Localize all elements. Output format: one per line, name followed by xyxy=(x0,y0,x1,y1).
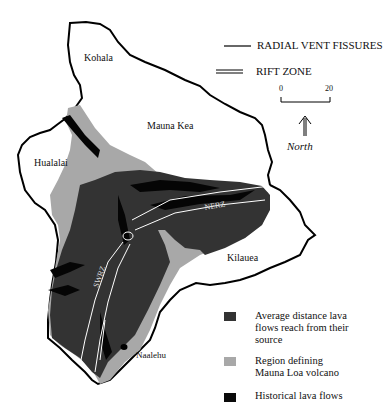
swatch-average-distance xyxy=(224,312,236,321)
swatch-mauna-loa-region xyxy=(224,357,236,366)
scale-bar xyxy=(281,97,330,102)
swatch-historical-flows xyxy=(224,393,236,402)
label-hualalai: Hualalai xyxy=(34,157,68,168)
north-arrow-icon xyxy=(299,116,311,136)
rift-zone-label: RIFT ZONE xyxy=(256,65,312,77)
scale-end: 20 xyxy=(325,84,333,93)
key-historical-flows: Historical lava flows xyxy=(255,390,353,402)
key-mauna-loa-region: Region defining Mauna Loa volcano xyxy=(255,355,353,379)
north-label: North xyxy=(287,140,313,152)
key-average-distance: Average distance lava flows reach from t… xyxy=(255,310,353,346)
label-mauna-kea: Mauna Kea xyxy=(147,120,193,131)
scale-start: 0 xyxy=(279,84,283,93)
label-kilauea: Kilauea xyxy=(227,252,258,263)
radial-vent-label: RADIAL VENT FISSURES xyxy=(257,39,383,51)
label-kohala: Kohala xyxy=(84,52,113,63)
label-naalehu: Naalehu xyxy=(136,350,166,360)
naalehu-dot xyxy=(121,344,128,350)
